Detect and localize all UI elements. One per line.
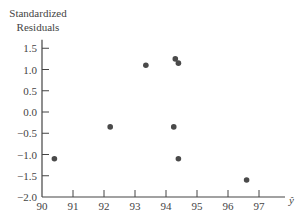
y-tick-label: −2.0 — [17, 191, 37, 203]
x-tick-label: 97 — [254, 200, 266, 212]
x-tick-label: 90 — [37, 200, 49, 212]
x-tick-label: 93 — [130, 200, 142, 212]
x-axis-label: ŷ — [288, 194, 294, 206]
x-tick-label: 92 — [99, 200, 110, 212]
y-tick-label: −0.5 — [17, 127, 37, 139]
x-tick-label: 95 — [192, 200, 204, 212]
data-point — [176, 60, 182, 66]
x-tick-label: 91 — [68, 200, 79, 212]
y-tick-label: 0.0 — [23, 106, 37, 118]
data-points — [52, 56, 250, 183]
data-point — [52, 156, 58, 162]
y-axis-label-line1: Standardized — [9, 7, 67, 19]
data-point — [176, 156, 182, 162]
x-tick-label: 94 — [161, 200, 173, 212]
y-axis-label-line2: Residuals — [17, 21, 60, 33]
y-tick-label: 0.5 — [23, 85, 37, 97]
y-tick-label: 1.5 — [23, 42, 37, 54]
y-tick-label: −1.5 — [17, 170, 37, 182]
residual-scatter-plot: Standardized Residuals 1.51.00.50.0−0.5−… — [0, 0, 297, 222]
y-ticks: 1.51.00.50.0−0.5−1.0−1.5−2.0 — [17, 42, 49, 203]
axes — [42, 40, 285, 197]
y-tick-label: 1.0 — [23, 64, 37, 76]
data-point — [107, 124, 113, 130]
x-tick-label: 96 — [223, 200, 235, 212]
y-tick-label: −1.0 — [17, 149, 37, 161]
data-point — [171, 124, 177, 130]
data-point — [244, 177, 250, 183]
data-point — [143, 62, 149, 68]
x-ticks: 9091929394959697 — [37, 190, 266, 212]
